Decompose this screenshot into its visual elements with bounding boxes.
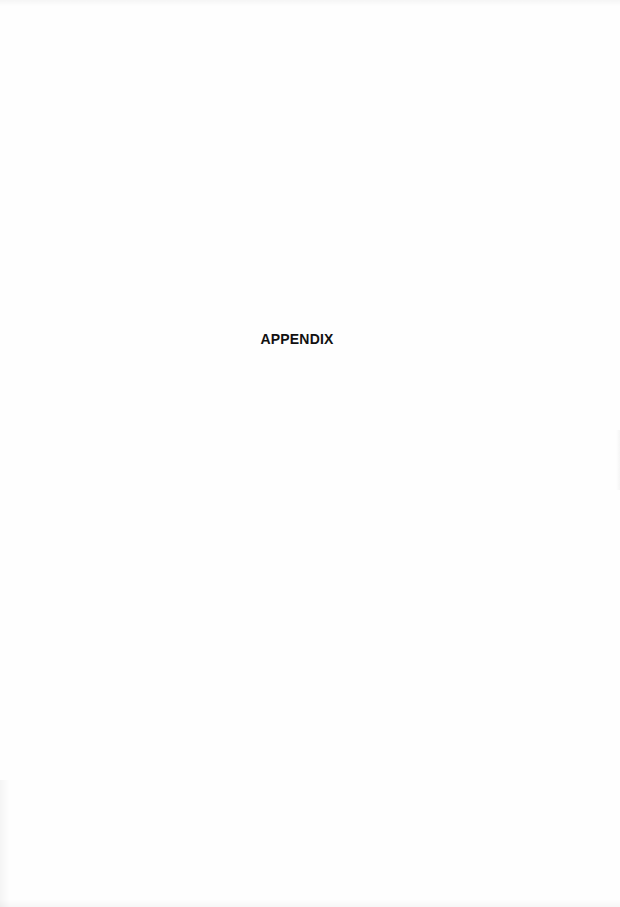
document-page: APPENDIX [0, 0, 620, 907]
scan-artifact-top [0, 0, 620, 6]
scan-artifact-left [0, 780, 10, 907]
appendix-heading: APPENDIX [0, 330, 620, 348]
appendix-heading-text: APPENDIX [260, 330, 333, 348]
scan-artifact-right [616, 430, 620, 490]
scan-artifact-bottom [0, 899, 620, 907]
